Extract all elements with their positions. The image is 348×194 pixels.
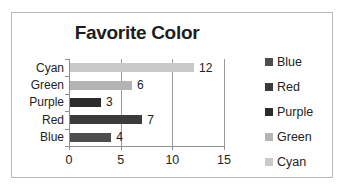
legend-item-purple: Purple [265,106,331,119]
category-label-cyan: Cyan [12,59,64,76]
bar-green [70,81,132,90]
bar-series: 126374 [70,59,224,146]
legend-item-cyan: Cyan [265,156,331,169]
legend-item-blue: Blue [265,56,331,69]
bar-value-label: 3 [106,96,113,108]
category-label-green: Green [12,76,64,93]
legend-label: Red [277,81,300,94]
bar-row: 7 [70,111,224,128]
bar-blue [70,133,111,142]
legend-label: Green [277,131,312,144]
legend-label: Blue [277,56,302,69]
category-label-purple: Purple [12,94,64,111]
x-tick-label: 10 [165,153,179,167]
bar-cyan [70,63,194,72]
legend-item-red: Red [265,81,331,94]
legend-swatch-icon [265,158,273,166]
category-tick [65,129,69,130]
category-tick [65,111,69,112]
legend-label: Cyan [277,156,306,169]
bar-row: 12 [70,59,224,76]
bar-value-label: 12 [199,62,212,74]
legend-swatch-icon [265,133,273,141]
x-tick-label: 15 [217,153,231,167]
legend-swatch-icon [265,58,273,66]
x-tick-label: 5 [117,153,124,167]
category-tick [65,59,69,60]
bar-row: 6 [70,76,224,93]
plot-area: 126374 [69,59,224,146]
category-axis-labels: CyanGreenPurpleRedBlue [12,59,64,146]
bar-value-label: 6 [137,79,144,91]
bar-value-label: 7 [147,114,154,126]
chart-title: Favorite Color [12,22,262,44]
x-tick [121,146,122,150]
gridline [224,59,225,146]
bar-purple [70,98,101,107]
category-tick [65,146,69,147]
bar-row: 4 [70,129,224,146]
legend-swatch-icon [265,108,273,116]
bar-red [70,115,142,124]
x-tick-label: 0 [66,153,73,167]
legend-label: Purple [277,106,313,119]
bar-row: 3 [70,94,224,111]
chart-frame: Favorite Color CyanGreenPurpleRedBlue 12… [11,12,333,178]
bar-value-label: 4 [116,131,123,143]
x-tick [172,146,173,150]
value-axis: 051015 [69,146,225,147]
legend-item-green: Green [265,131,331,144]
x-tick [69,146,70,150]
category-label-red: Red [12,111,64,128]
category-tick [65,94,69,95]
x-tick [224,146,225,150]
category-tick [65,76,69,77]
legend-swatch-icon [265,83,273,91]
category-label-blue: Blue [12,129,64,146]
chart-legend: BlueRedPurpleGreenCyan [265,56,331,168]
